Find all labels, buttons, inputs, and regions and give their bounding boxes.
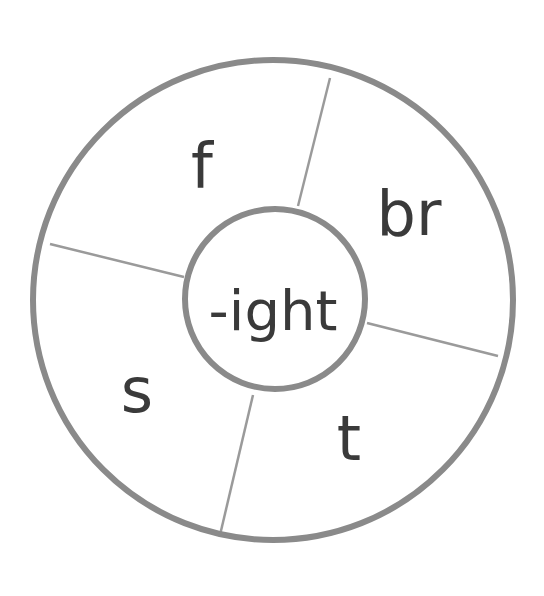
segment-label-t: t — [337, 402, 361, 475]
divider-top — [298, 78, 330, 206]
divider-bottom — [220, 395, 253, 535]
segment-label-s: s — [121, 354, 153, 427]
center-label: -ight — [209, 278, 338, 343]
segment-label-br: br — [377, 177, 442, 250]
segment-label-f: f — [191, 129, 215, 202]
word-wheel-diagram: f br t s -ight — [0, 0, 544, 596]
divider-left — [50, 244, 184, 277]
divider-right — [367, 323, 498, 356]
